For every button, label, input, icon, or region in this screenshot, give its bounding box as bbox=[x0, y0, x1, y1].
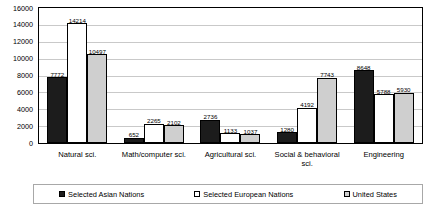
bar-slot: 10497 bbox=[87, 8, 107, 143]
legend-swatch-icon bbox=[344, 191, 350, 197]
y-axis-tick-label: 16000 bbox=[0, 5, 33, 12]
bar-chart: 1600014000120001000080006000400020000 77… bbox=[0, 0, 429, 210]
bar[interactable]: 5930 bbox=[394, 93, 414, 143]
y-axis-tick-label: 10000 bbox=[0, 55, 33, 62]
bar-value-label: 652 bbox=[129, 131, 139, 138]
bar-value-label: 5930 bbox=[397, 86, 411, 93]
y-axis-tick-label: 2000 bbox=[0, 123, 33, 130]
legend-item[interactable]: Selected European Nations bbox=[194, 190, 293, 199]
bar[interactable]: 7772 bbox=[47, 77, 67, 143]
bar[interactable]: 7743 bbox=[317, 78, 337, 143]
bar-slot: 2736 bbox=[200, 8, 220, 143]
x-axis-tick-label: Math/computer sci. bbox=[116, 150, 193, 168]
bar-slot: 1037 bbox=[240, 8, 260, 143]
bar-group: 77721421410497 bbox=[39, 8, 116, 143]
bar[interactable]: 10497 bbox=[87, 54, 107, 143]
legend-swatch-icon bbox=[59, 191, 65, 197]
bar-group: 65222652102 bbox=[116, 8, 193, 143]
x-axis-tick-label: Social & behavioral sci. bbox=[269, 150, 346, 168]
bar-slot: 4192 bbox=[297, 8, 317, 143]
y-axis-tick-label: 12000 bbox=[0, 38, 33, 45]
bar[interactable]: 14214 bbox=[67, 23, 87, 143]
bar-slot: 652 bbox=[124, 8, 144, 143]
x-axis-tick-label: Agricultural sci. bbox=[192, 150, 269, 168]
bar[interactable]: 8648 bbox=[354, 70, 374, 143]
bar-value-label: 2265 bbox=[147, 117, 161, 124]
bar-value-label: 1133 bbox=[224, 127, 237, 134]
bar-slot: 14214 bbox=[67, 8, 87, 143]
bar[interactable]: 1280 bbox=[277, 132, 297, 143]
bar-value-label: 7743 bbox=[320, 71, 334, 78]
bar-slot: 5930 bbox=[394, 8, 414, 143]
bar[interactable]: 1037 bbox=[240, 134, 260, 143]
y-axis-tick-label: 4000 bbox=[0, 106, 33, 113]
bar[interactable]: 1133 bbox=[220, 133, 240, 143]
bar-value-label: 4192 bbox=[300, 101, 314, 108]
bar-slot: 1280 bbox=[277, 8, 297, 143]
x-axis-tick-label: Natural sci. bbox=[39, 150, 116, 168]
chart-legend: Selected Asian NationsSelected European … bbox=[33, 184, 423, 204]
bar[interactable]: 2736 bbox=[200, 120, 220, 143]
bar-group: 864857885930 bbox=[345, 8, 422, 143]
legend-swatch-icon bbox=[194, 191, 200, 197]
bar-group: 273611331037 bbox=[192, 8, 269, 143]
bar-value-label: 1037 bbox=[244, 128, 258, 135]
y-axis-tick-label: 0 bbox=[0, 140, 33, 147]
legend-item[interactable]: Selected Asian Nations bbox=[59, 190, 144, 199]
legend-label: Selected European Nations bbox=[203, 190, 293, 199]
bar-slot: 1133 bbox=[220, 8, 240, 143]
x-axis-category-labels: Natural sci.Math/computer sci.Agricultur… bbox=[39, 150, 422, 168]
legend-label: United States bbox=[353, 190, 397, 199]
bar-slot: 8648 bbox=[354, 8, 374, 143]
bar-value-label: 2102 bbox=[167, 119, 181, 126]
bar[interactable]: 5788 bbox=[374, 94, 394, 143]
bar-slot: 2265 bbox=[144, 8, 164, 143]
legend-label: Selected Asian Nations bbox=[68, 190, 144, 199]
bar[interactable]: 2102 bbox=[164, 125, 184, 143]
y-axis: 1600014000120001000080006000400020000 bbox=[0, 0, 36, 151]
bar[interactable]: 2265 bbox=[144, 124, 164, 143]
bar-value-label: 1280 bbox=[280, 126, 294, 133]
bar-slot: 2102 bbox=[164, 8, 184, 143]
bar-value-label: 7772 bbox=[50, 71, 64, 78]
bar-value-label: 8648 bbox=[357, 64, 371, 71]
bar-groups: 7772142141049765222652102273611331037128… bbox=[39, 8, 422, 143]
bar-slot: 7772 bbox=[47, 8, 67, 143]
x-axis-tick-label: Engineering bbox=[345, 150, 422, 168]
legend-item[interactable]: United States bbox=[344, 190, 397, 199]
bar-value-label: 5788 bbox=[377, 88, 391, 95]
y-axis-tick-label: 8000 bbox=[0, 72, 33, 79]
bar-group: 128041927743 bbox=[269, 8, 346, 143]
bar-value-label: 10497 bbox=[89, 48, 106, 55]
bar-value-label: 14214 bbox=[69, 17, 86, 24]
y-axis-tick-label: 14000 bbox=[0, 21, 33, 28]
y-axis-tick-label: 6000 bbox=[0, 89, 33, 96]
bar-value-label: 2736 bbox=[204, 113, 218, 120]
bar[interactable]: 4192 bbox=[297, 108, 317, 143]
bar-slot: 7743 bbox=[317, 8, 337, 143]
bar[interactable]: 652 bbox=[124, 138, 144, 144]
bar-slot: 5788 bbox=[374, 8, 394, 143]
